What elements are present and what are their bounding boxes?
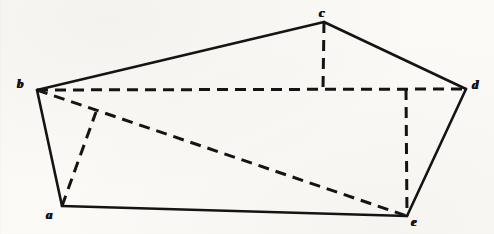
vertex-label-a: a (46, 208, 53, 221)
diagonal-b-d (37, 89, 466, 90)
dashed-edges-group (37, 22, 466, 216)
solid-edges-group (37, 22, 466, 216)
edge-e-a (62, 206, 407, 216)
vertex-label-b: b (17, 77, 24, 90)
vertex-label-d: d (472, 78, 479, 91)
altitude-a-to-be (62, 112, 96, 206)
figure-svg (0, 0, 494, 234)
vertex-label-e: e (411, 215, 417, 228)
altitude-e-to-bd (406, 89, 407, 216)
edge-d-e (407, 89, 466, 216)
edge-c-d (324, 22, 466, 89)
edge-a-b (37, 90, 62, 206)
edge-b-c (37, 22, 324, 90)
diagonal-b-e (37, 90, 407, 216)
altitude-c-to-bd (323, 22, 324, 89)
geometric-figure-canvas: a b c d e (0, 0, 494, 234)
vertex-label-c: c (319, 6, 325, 19)
